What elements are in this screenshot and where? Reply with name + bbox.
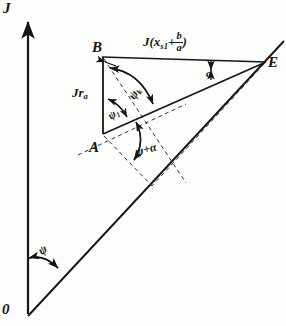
top-prefix: J(x bbox=[143, 34, 160, 49]
vertex-label-a: A bbox=[89, 140, 99, 155]
vertex-label-e: E bbox=[268, 55, 278, 70]
top-subscript: s1 bbox=[160, 41, 168, 51]
jra-prefix: Jr bbox=[72, 85, 84, 100]
vertex-label-b: B bbox=[92, 40, 102, 55]
magnitude-label-jra: Jra bbox=[72, 86, 88, 101]
angle-arc-psi-origin bbox=[29, 257, 58, 268]
origin-label: 0 bbox=[2, 302, 10, 317]
top-fraction: ba bbox=[175, 31, 182, 54]
angle-label-alpha-at-e: α bbox=[206, 68, 212, 79]
fraction-denominator: a bbox=[175, 43, 182, 54]
axis-label-j: J bbox=[3, 1, 11, 16]
jra-subscript: a bbox=[84, 91, 88, 101]
phasor-diagram-canvas: J 0 B A E Jra J(xs1+ba) ψ ψk ψ1 ψ+α α bbox=[0, 0, 286, 326]
top-close-paren: ) bbox=[183, 34, 187, 49]
magnitude-label-top: J(xs1+ba) bbox=[143, 31, 187, 54]
top-plus: + bbox=[168, 34, 175, 49]
magnitude-arrow-a-b bbox=[105, 62, 116, 66]
